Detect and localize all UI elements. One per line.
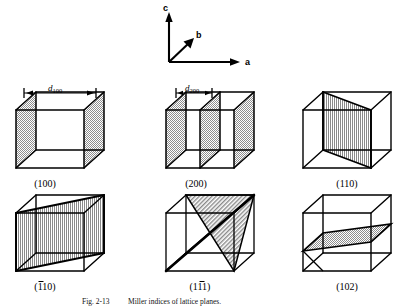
- plane-200-right: [234, 92, 254, 168]
- cell-label-102: (102): [336, 281, 358, 293]
- cell-label-110: (110): [336, 178, 357, 190]
- cell-label-1bar10: (110): [34, 281, 55, 293]
- plane-200-middle: [200, 92, 220, 168]
- cell-110: (110): [303, 92, 391, 190]
- plane-110: [323, 92, 371, 168]
- figure-caption: Fig. 2-13 Miller indices of lattice plan…: [82, 297, 221, 306]
- cell-label-200: (200): [185, 178, 207, 190]
- caption-number: Fig. 2-13: [82, 297, 110, 306]
- plane-200-left: [166, 92, 186, 168]
- plane-100-right: [84, 92, 104, 168]
- cell-label-11bar1: (111): [190, 281, 211, 293]
- axis-a-arrow: [169, 58, 240, 65]
- cell-200: d200 (200): [166, 83, 254, 190]
- cell-100: d100 (100): [16, 83, 104, 190]
- plane-102: [303, 224, 391, 251]
- svg-text:(110): (110): [34, 281, 55, 293]
- crystallographic-axis-triad: c a b: [163, 3, 251, 67]
- axis-c-arrow: [165, 12, 172, 62]
- axis-label-c: c: [163, 3, 168, 13]
- cell-11bar1: (111): [166, 195, 254, 293]
- axis-label-b: b: [196, 30, 202, 40]
- cell-102: (102): [303, 195, 391, 293]
- miller-indices-figure: c a b d100 (100): [0, 0, 407, 306]
- axis-label-a: a: [245, 57, 251, 67]
- cell-1bar10: (110): [16, 195, 104, 293]
- plane-100-left: [16, 92, 36, 168]
- caption-body: Miller indices of lattice planes.: [128, 297, 221, 306]
- cell-label-100: (100): [34, 178, 56, 190]
- axis-b-arrow: [169, 38, 194, 62]
- svg-text:(111): (111): [190, 281, 211, 293]
